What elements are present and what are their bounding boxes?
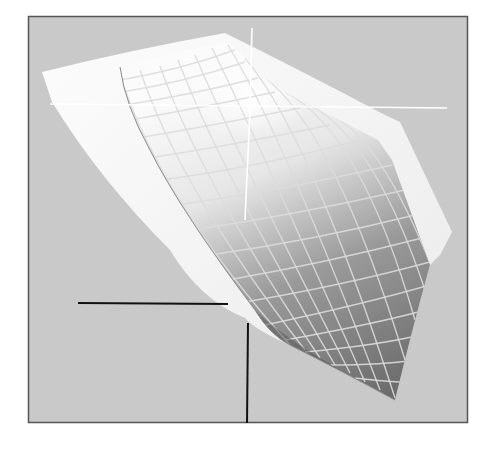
surface-diagram	[0, 0, 491, 452]
leader-line-horizontal	[78, 303, 228, 304]
leader-line-vertical	[247, 323, 248, 423]
diagram-figure	[0, 0, 491, 452]
